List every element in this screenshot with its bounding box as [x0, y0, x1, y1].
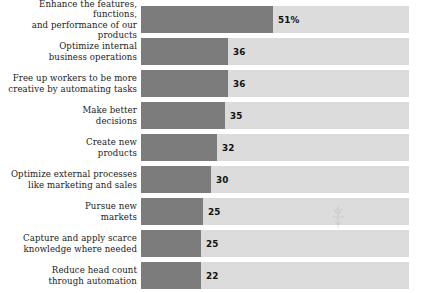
bar-track: 32: [141, 134, 409, 161]
table-row: Pursue new markets 25: [0, 198, 425, 225]
bar-category-label: Capture and apply scarce knowledge where…: [0, 233, 141, 254]
bar-track: 25: [141, 198, 409, 225]
bar-chart-rows: Enhance the features, functions, and per…: [0, 6, 425, 293]
bar-category-label: Make better decisions: [0, 105, 141, 126]
bar-category-label: Optimize internal business operations: [0, 41, 141, 62]
bar-fill: [141, 166, 211, 193]
bar-category-label: Free up workers to be more creative by a…: [0, 73, 141, 94]
bar-track: 36: [141, 70, 409, 97]
bar-track: 36: [141, 38, 409, 65]
bar-category-label: Reduce head count through automation: [0, 265, 141, 286]
bar-track: 51%: [141, 6, 409, 33]
table-row: Optimize internal business operations 36: [0, 38, 425, 65]
bar-value-label: 32: [222, 143, 235, 153]
table-row: Free up workers to be more creative by a…: [0, 70, 425, 97]
bar-track: 22: [141, 262, 409, 289]
bar-fill: [141, 262, 201, 289]
bar-fill: [141, 6, 273, 33]
bar-fill: [141, 134, 217, 161]
bar-value-label: 35: [230, 111, 243, 121]
bar-fill: [141, 38, 228, 65]
table-row: Reduce head count through automation 22: [0, 262, 425, 289]
bar-fill: [141, 230, 201, 257]
table-row: Make better decisions 35: [0, 102, 425, 129]
bar-fill: [141, 102, 225, 129]
bar-category-label: Optimize external processes like marketi…: [0, 169, 141, 190]
table-row: Enhance the features, functions, and per…: [0, 6, 425, 33]
bar-track: 25: [141, 230, 409, 257]
bar-fill: [141, 70, 228, 97]
bar-value-label: 25: [208, 207, 221, 217]
table-row: Capture and apply scarce knowledge where…: [0, 230, 425, 257]
bar-category-label: Pursue new markets: [0, 201, 141, 222]
table-row: Create new products 32: [0, 134, 425, 161]
bar-value-label: 36: [233, 79, 246, 89]
bar-value-label: 25: [206, 239, 219, 249]
bar-track: 30: [141, 166, 409, 193]
bar-fill: [141, 198, 203, 225]
bar-value-label: 51%: [278, 15, 300, 25]
bar-value-label: 36: [233, 47, 246, 57]
bar-value-label: 22: [206, 271, 219, 281]
table-row: Optimize external processes like marketi…: [0, 166, 425, 193]
bar-value-label: 30: [216, 175, 229, 185]
bar-category-label: Enhance the features, functions, and per…: [0, 0, 141, 40]
bar-category-label: Create new products: [0, 137, 141, 158]
bar-track: 35: [141, 102, 409, 129]
